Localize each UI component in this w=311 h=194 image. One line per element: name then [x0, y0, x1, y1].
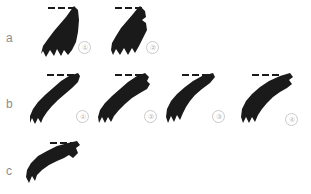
row-label-a: a — [6, 32, 13, 44]
specimen-silhouette — [98, 73, 150, 125]
row-label-b: b — [6, 98, 13, 110]
specimen-index-badge: ② — [144, 110, 157, 123]
specimen-silhouette — [26, 141, 80, 188]
row-label-c: c — [6, 165, 12, 177]
specimen-index-badge: ① — [78, 41, 91, 54]
specimen-index-badge: ③ — [212, 110, 225, 123]
figure-panel: a①②b①②③④c — [0, 0, 311, 194]
specimen-index-badge: ④ — [285, 113, 298, 126]
specimen-silhouette — [106, 6, 150, 60]
specimen-silhouette — [166, 73, 218, 125]
specimen-silhouette — [30, 73, 80, 125]
specimen-index-badge: ① — [76, 110, 89, 123]
specimen-index-badge: ② — [146, 41, 159, 54]
specimen-silhouette — [38, 6, 80, 60]
